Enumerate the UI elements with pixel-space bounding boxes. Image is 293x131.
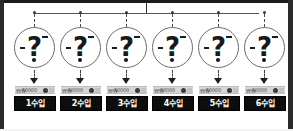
chip-tail bbox=[233, 88, 238, 93]
node-column-6[interactable]: ?₩₩500006수입 bbox=[244, 0, 286, 131]
amount-chip-4[interactable]: ₩₩50000 bbox=[153, 86, 193, 94]
amount-chip-1[interactable]: ₩₩50000 bbox=[15, 86, 55, 94]
dash-mark-right-icon bbox=[88, 36, 94, 38]
dash-mark-left-icon bbox=[20, 47, 25, 49]
chip-amount-text: 50000 bbox=[160, 87, 175, 94]
arrow-down-icon bbox=[30, 78, 38, 84]
chip-amount-text: 50000 bbox=[114, 87, 129, 94]
chip-amount-text: 50000 bbox=[252, 87, 267, 94]
chip-dot-icon bbox=[273, 88, 278, 93]
dash-mark-left-icon bbox=[66, 47, 71, 49]
node-column-4[interactable]: ?₩₩500004수입 bbox=[152, 0, 194, 131]
arrow-down-icon bbox=[214, 78, 222, 84]
chip-tail bbox=[187, 88, 192, 93]
chip-dot-icon bbox=[89, 88, 94, 93]
arrow-down-icon bbox=[76, 78, 84, 84]
chip-amount-text: 50000 bbox=[206, 87, 221, 94]
question-dot-icon bbox=[262, 58, 266, 62]
chip-dot-icon bbox=[227, 88, 232, 93]
dash-mark-right-icon bbox=[134, 36, 140, 38]
amount-chip-3[interactable]: ₩₩50000 bbox=[107, 86, 147, 94]
dash-mark-left-icon bbox=[158, 47, 163, 49]
chip-tail bbox=[141, 88, 146, 93]
amount-chip-2[interactable]: ₩₩50000 bbox=[61, 86, 101, 94]
question-dot-icon bbox=[32, 58, 36, 62]
question-dot-icon bbox=[170, 58, 174, 62]
chip-dot-icon bbox=[43, 88, 48, 93]
arrow-down-icon bbox=[260, 78, 268, 84]
node-label-2: 2수입 bbox=[60, 96, 102, 111]
chip-amount-text: 50000 bbox=[68, 87, 83, 94]
node-label-1: 1수입 bbox=[14, 96, 56, 111]
dash-mark-right-icon bbox=[180, 36, 186, 38]
page-edge-left bbox=[0, 0, 4, 131]
question-dot-icon bbox=[124, 58, 128, 62]
chip-tail bbox=[49, 88, 54, 93]
node-label-3: 3수입 bbox=[106, 96, 148, 111]
dash-mark-left-icon bbox=[250, 47, 255, 49]
arrow-down-icon bbox=[122, 78, 130, 84]
diagram-canvas: ?₩₩500001수입?₩₩500002수입?₩₩500003수입?₩₩5000… bbox=[0, 0, 293, 131]
question-dot-icon bbox=[216, 58, 220, 62]
page-edge-right bbox=[288, 0, 293, 131]
amount-chip-5[interactable]: ₩₩50000 bbox=[199, 86, 239, 94]
chip-dot-icon bbox=[181, 88, 186, 93]
dash-mark-right-icon bbox=[226, 36, 232, 38]
question-dot-icon bbox=[78, 58, 82, 62]
dash-mark-left-icon bbox=[112, 47, 117, 49]
node-label-6: 6수입 bbox=[244, 96, 286, 111]
dash-mark-right-icon bbox=[272, 36, 278, 38]
node-label-5: 5수입 bbox=[198, 96, 240, 111]
node-column-2[interactable]: ?₩₩500002수입 bbox=[60, 0, 102, 131]
chip-dot-icon bbox=[135, 88, 140, 93]
amount-chip-6[interactable]: ₩₩50000 bbox=[245, 86, 285, 94]
dash-mark-right-icon bbox=[42, 36, 48, 38]
chip-tail bbox=[279, 88, 284, 93]
node-column-3[interactable]: ?₩₩500003수입 bbox=[106, 0, 148, 131]
chip-tail bbox=[95, 88, 100, 93]
node-column-1[interactable]: ?₩₩500001수입 bbox=[14, 0, 56, 131]
arrow-down-icon bbox=[168, 78, 176, 84]
node-label-4: 4수입 bbox=[152, 96, 194, 111]
node-column-5[interactable]: ?₩₩500005수입 bbox=[198, 0, 240, 131]
chip-amount-text: 50000 bbox=[22, 87, 37, 94]
dash-mark-left-icon bbox=[204, 47, 209, 49]
